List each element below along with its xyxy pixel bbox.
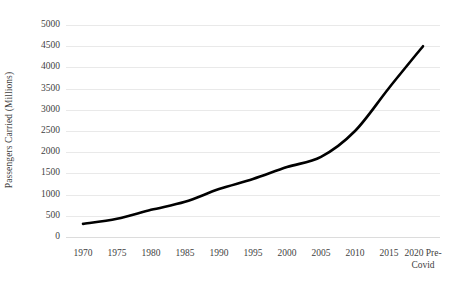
plot-area bbox=[66, 25, 440, 237]
x-axis-tick-label: 2020 Pre-Covid bbox=[387, 248, 457, 271]
y-axis-tick-label: 3000 bbox=[16, 105, 60, 115]
y-axis-tick-label: 5000 bbox=[16, 20, 60, 30]
y-axis-tick-label: 2500 bbox=[16, 126, 60, 136]
gridline bbox=[66, 237, 440, 238]
y-axis-tick-label: 4000 bbox=[16, 62, 60, 72]
y-axis-tick-label: 3500 bbox=[16, 84, 60, 94]
y-axis-tick-labels: 5000450040003500300025002000150010005000 bbox=[0, 25, 66, 237]
series-path bbox=[83, 46, 423, 224]
line-chart: Passengers Carried (Millions) 5000450040… bbox=[0, 0, 457, 293]
y-axis-tick-label: 4500 bbox=[16, 41, 60, 51]
y-axis-tick-label: 2000 bbox=[16, 147, 60, 157]
x-axis-tick-labels: 1970197519801985199019952000200520102015… bbox=[66, 248, 440, 290]
y-axis-tick-label: 1000 bbox=[16, 190, 60, 200]
series-line-passengers-carried bbox=[66, 25, 440, 237]
y-axis-tick-label: 500 bbox=[16, 211, 60, 221]
y-axis-tick-label: 0 bbox=[16, 232, 60, 242]
y-axis-tick-label: 1500 bbox=[16, 168, 60, 178]
